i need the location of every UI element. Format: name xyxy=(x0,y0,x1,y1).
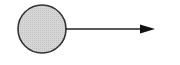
arrow-head-icon xyxy=(140,25,155,34)
vector-diagram xyxy=(0,0,180,65)
circle-node xyxy=(18,5,66,53)
